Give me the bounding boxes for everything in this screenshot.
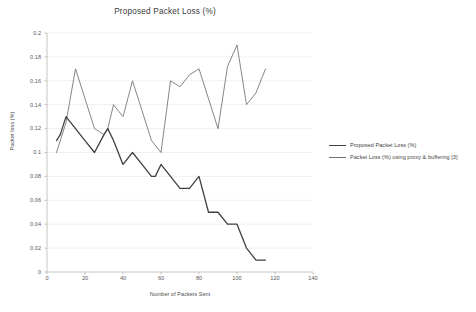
x-tick-label: 120 xyxy=(263,275,287,281)
legend-color-swatch xyxy=(329,157,346,158)
legend-color-swatch xyxy=(329,145,346,146)
y-tick-label: 0 xyxy=(15,269,41,275)
y-tick-label: 0.2 xyxy=(15,30,41,36)
series-line xyxy=(57,45,266,153)
legend-label: Packet Loss (%) using proxy & buffering … xyxy=(350,154,458,160)
x-tick-label: 60 xyxy=(149,275,173,281)
x-tick-label: 20 xyxy=(73,275,97,281)
x-axis-label: Number of Packets Sent xyxy=(47,291,313,297)
legend-item[interactable]: Proposed Packet Loss (%) xyxy=(329,140,458,150)
y-tick-label: 0.12 xyxy=(15,125,41,131)
chart-legend: Proposed Packet Loss (%)Packet Loss (%) … xyxy=(329,140,458,164)
y-tick-label: 0.1 xyxy=(15,149,41,155)
x-tick-label: 140 xyxy=(301,275,325,281)
y-tick-label: 0.14 xyxy=(15,102,41,108)
y-axis-label: Packet loss (%) xyxy=(9,101,15,161)
gridlines xyxy=(47,33,313,248)
y-tick-label: 0.06 xyxy=(15,197,41,203)
series-line xyxy=(57,117,266,260)
y-tick-label: 0.16 xyxy=(15,78,41,84)
legend-label: Proposed Packet Loss (%) xyxy=(350,142,416,148)
y-tick-label: 0.18 xyxy=(15,54,41,60)
legend-item[interactable]: Packet Loss (%) using proxy & buffering … xyxy=(329,152,458,162)
y-tick-label: 0.04 xyxy=(15,221,41,227)
axis-lines xyxy=(45,33,314,275)
x-tick-label: 0 xyxy=(35,275,59,281)
y-tick-label: 0.08 xyxy=(15,173,41,179)
y-tick-label: 0.02 xyxy=(15,245,41,251)
x-tick-label: 100 xyxy=(225,275,249,281)
x-tick-label: 80 xyxy=(187,275,211,281)
x-tick-label: 40 xyxy=(111,275,135,281)
chart-container: Proposed Packet Loss (%) 00.020.040.060.… xyxy=(0,0,476,312)
